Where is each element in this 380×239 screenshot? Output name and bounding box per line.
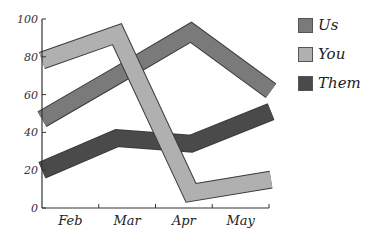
y-tick-label: 0 bbox=[31, 202, 38, 215]
legend-item-us: Us bbox=[298, 17, 361, 33]
x-tick-label: Apr bbox=[171, 213, 197, 228]
legend-label-you: You bbox=[318, 45, 345, 63]
legend-item-them: Them bbox=[298, 75, 361, 91]
x-tick-label: Mar bbox=[112, 213, 141, 228]
legend-label-them: Them bbox=[318, 74, 361, 92]
series-layer bbox=[42, 32, 271, 193]
y-tick-label: 40 bbox=[23, 126, 38, 139]
x-tick-label: May bbox=[225, 213, 255, 228]
legend: Us You Them bbox=[298, 17, 361, 104]
legend-swatch-you bbox=[298, 47, 313, 62]
legend-label-us: Us bbox=[318, 16, 338, 34]
y-tick-label: 20 bbox=[23, 164, 38, 177]
y-tick-label: 80 bbox=[24, 51, 38, 64]
legend-item-you: You bbox=[298, 46, 361, 62]
legend-swatch-us bbox=[298, 18, 313, 33]
x-tick-label: Feb bbox=[57, 213, 82, 228]
legend-swatch-them bbox=[298, 76, 313, 91]
y-tick-label: 100 bbox=[17, 13, 38, 26]
y-tick-label: 60 bbox=[24, 89, 38, 102]
